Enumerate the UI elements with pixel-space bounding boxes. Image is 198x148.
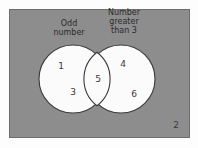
element-5: 5 — [92, 75, 104, 84]
set-label-right-line1: Number — [99, 8, 149, 17]
element-6: 6 — [128, 90, 140, 99]
set-label-left-line2: number — [46, 28, 92, 37]
set-label-left-line1: Odd — [46, 19, 92, 28]
element-2: 2 — [170, 121, 182, 130]
venn-diagram: Odd number Number greater than 3 1 3 5 4… — [0, 0, 198, 148]
element-1: 1 — [55, 62, 67, 71]
element-4: 4 — [117, 60, 129, 69]
set-label-right: Number greater than 3 — [99, 8, 149, 35]
set-label-right-line2: greater — [99, 17, 149, 26]
set-label-left: Odd number — [46, 19, 92, 37]
set-label-right-line3: than 3 — [99, 26, 149, 35]
element-3: 3 — [67, 88, 79, 97]
